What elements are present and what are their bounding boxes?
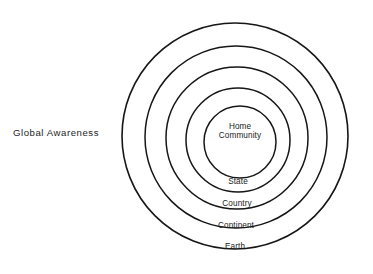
- label-home-community: Home Community: [219, 122, 261, 140]
- ring-home-community: [204, 106, 276, 178]
- label-state: State: [228, 177, 248, 186]
- label-country: Country: [222, 199, 251, 208]
- label-community: Community: [219, 131, 261, 140]
- concentric-circles-diagram: Home Community State Country Continent E…: [0, 0, 373, 274]
- global-awareness-label: Global Awareness: [13, 128, 99, 139]
- label-earth: Earth: [225, 242, 245, 251]
- label-home: Home: [219, 122, 261, 131]
- label-continent: Continent: [218, 221, 254, 230]
